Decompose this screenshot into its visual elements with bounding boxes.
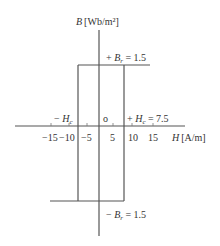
plus-hc-label: + Hc = 7.5 bbox=[127, 113, 169, 126]
tick-label: −15 bbox=[42, 132, 58, 143]
origin-label: o bbox=[103, 113, 108, 124]
tick-label: 10 bbox=[128, 132, 138, 143]
hysteresis-diagram: B[Wb/m²] H[A/m] −15 −10 −5 5 10 15 o + B… bbox=[0, 0, 220, 246]
h-axis-label: H[A/m] bbox=[171, 132, 206, 143]
tick-label: 15 bbox=[148, 132, 158, 143]
minus-br-label: − Br = 1.5 bbox=[106, 209, 146, 222]
tick-label: 5 bbox=[110, 132, 115, 143]
plus-br-label: + Br = 1.5 bbox=[106, 52, 146, 65]
tick-label: −10 bbox=[59, 132, 75, 143]
tick-label: −5 bbox=[81, 132, 92, 143]
b-axis-label: B[Wb/m²] bbox=[76, 16, 119, 27]
minus-hc-label: − Hc bbox=[54, 113, 73, 126]
